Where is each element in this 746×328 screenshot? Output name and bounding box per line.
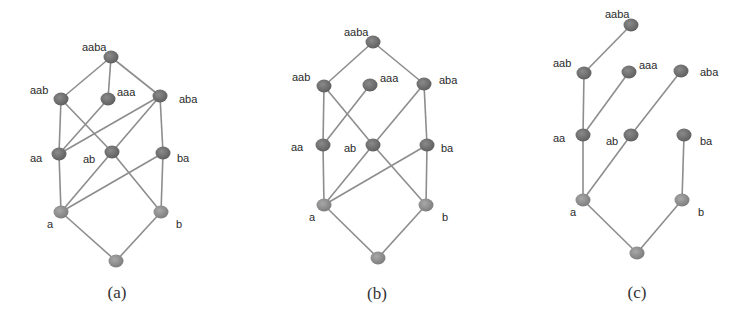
edge-ba-b bbox=[426, 145, 427, 205]
edge-aaa-aa bbox=[583, 72, 629, 135]
node-label-aa: aa bbox=[553, 132, 566, 144]
panel-c: aabaaabaaaabaaaabbaab(c) bbox=[553, 8, 719, 302]
node-aba bbox=[674, 65, 689, 78]
node-aab bbox=[577, 67, 592, 80]
node-label-ba: ba bbox=[177, 152, 190, 164]
edge-ba-b bbox=[682, 135, 684, 200]
node-b bbox=[419, 199, 434, 212]
node-aaba bbox=[624, 19, 639, 32]
edge-aab-ab bbox=[324, 86, 373, 145]
node-label-aaa: aaa bbox=[117, 86, 136, 98]
node-label-ab: ab bbox=[83, 153, 95, 165]
node-aa bbox=[576, 129, 591, 142]
edge-aaba-aab bbox=[61, 57, 111, 99]
edge-aab-aa bbox=[323, 86, 324, 145]
node-empty bbox=[109, 255, 124, 268]
node-label-aaa: aaa bbox=[380, 72, 399, 84]
node-aaa bbox=[363, 79, 378, 92]
node-label-b: b bbox=[698, 206, 704, 218]
edge-ba-a bbox=[61, 153, 163, 212]
edge-aba-ab bbox=[631, 71, 681, 135]
edge-b-eps bbox=[116, 212, 161, 261]
edges bbox=[59, 57, 163, 261]
node-label-ba: ba bbox=[700, 135, 713, 147]
edge-aaba-aab bbox=[324, 42, 373, 86]
node-empty bbox=[630, 247, 645, 260]
edge-aba-ba bbox=[160, 96, 163, 153]
node-aba bbox=[153, 90, 168, 103]
edge-aba-ab bbox=[112, 96, 160, 152]
edge-a-eps bbox=[324, 205, 378, 258]
caption-b: (b) bbox=[367, 284, 387, 303]
edge-ab-b bbox=[112, 152, 161, 212]
node-label-aaa: aaa bbox=[639, 59, 658, 71]
node-label-ba: ba bbox=[441, 142, 454, 154]
node-empty bbox=[371, 252, 386, 265]
edge-aaba-aab bbox=[584, 25, 631, 73]
node-label-ab: ab bbox=[606, 135, 618, 147]
edge-aab-aa bbox=[59, 99, 61, 154]
edge-a-eps bbox=[583, 200, 637, 253]
node-label-a: a bbox=[309, 211, 316, 223]
node-b bbox=[154, 206, 169, 219]
edge-aab-aa bbox=[583, 73, 584, 135]
node-a bbox=[54, 206, 69, 219]
edge-ab-a bbox=[324, 145, 373, 205]
node-aab bbox=[54, 93, 69, 106]
node-ab bbox=[624, 129, 639, 142]
node-aba bbox=[417, 78, 432, 91]
node-ab bbox=[366, 139, 381, 152]
node-b bbox=[675, 194, 690, 207]
node-aab bbox=[317, 80, 332, 93]
node-label-aba: aba bbox=[179, 93, 198, 105]
edge-a-eps bbox=[61, 212, 116, 261]
node-label-aa: aa bbox=[30, 152, 43, 164]
node-label-a: a bbox=[47, 218, 54, 230]
node-a bbox=[576, 194, 591, 207]
node-label-aba: aba bbox=[439, 74, 458, 86]
node-label-aba: aba bbox=[700, 66, 719, 78]
node-ba bbox=[156, 147, 171, 160]
node-aaa bbox=[101, 93, 116, 106]
node-label-aaba: aaba bbox=[344, 26, 369, 38]
node-label-aaba: aaba bbox=[605, 8, 630, 20]
node-label-aa: aa bbox=[291, 141, 304, 153]
panel-b: aabaaabaaaabaaaabbaab(b) bbox=[291, 26, 458, 303]
edge-ba-a bbox=[324, 145, 427, 205]
node-label-a: a bbox=[570, 206, 577, 218]
node-label-aab: aab bbox=[30, 84, 48, 96]
node-aa bbox=[316, 139, 331, 152]
node-label-aab: aab bbox=[553, 57, 571, 69]
caption-c: (c) bbox=[628, 283, 647, 302]
node-label-aab: aab bbox=[292, 71, 310, 83]
node-ba bbox=[420, 139, 435, 152]
node-ab bbox=[105, 146, 120, 159]
edge-aba-ab bbox=[373, 84, 424, 145]
edge-ba-b bbox=[161, 153, 163, 212]
edge-aa-a bbox=[59, 154, 61, 212]
edge-b-eps bbox=[378, 205, 426, 258]
edge-aba-ba bbox=[424, 84, 427, 145]
node-a bbox=[317, 199, 332, 212]
node-label-ab: ab bbox=[344, 142, 356, 154]
diagram-canvas: aabaaabaaaabaaaabbaab(a) aabaaabaaaabaaa… bbox=[0, 0, 746, 328]
edge-b-eps bbox=[637, 200, 682, 253]
edge-aa-a bbox=[323, 145, 324, 205]
node-aa bbox=[52, 148, 67, 161]
panel-a: aabaaabaaaabaaaabbaab(a) bbox=[30, 41, 198, 302]
node-label-b: b bbox=[442, 211, 448, 223]
edge-aaa-aa bbox=[59, 99, 108, 154]
hasse-diagram-figure: aabaaabaaaabaaaabbaab(a) aabaaabaaaabaaa… bbox=[0, 0, 746, 328]
node-label-b: b bbox=[176, 218, 182, 230]
node-label-aaba: aaba bbox=[82, 41, 107, 53]
node-aaa bbox=[622, 66, 637, 79]
edge-ab-b bbox=[373, 145, 426, 205]
node-ba bbox=[677, 129, 692, 142]
caption-a: (a) bbox=[108, 283, 127, 302]
